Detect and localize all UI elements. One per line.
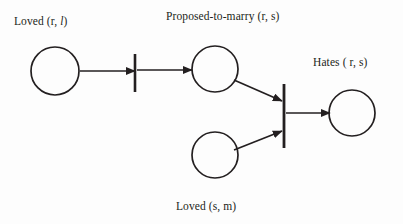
place-label-loved-sm: Loved (s, m)	[176, 199, 236, 213]
arc-loved-sm-to-t2	[234, 131, 282, 150]
diagram-canvas: Loved (r, l) Proposed-to-marry (r, s) Ha…	[0, 0, 403, 224]
label-text-suffix: )	[64, 15, 68, 27]
place-loved-rl	[31, 47, 79, 95]
label-text-prefix: Loved (r,	[14, 15, 60, 27]
transition-group	[135, 54, 284, 148]
place-loved-sm	[192, 132, 238, 178]
place-hates	[329, 90, 375, 136]
place-proposed-to-marry	[192, 46, 238, 92]
place-label-proposed-to-marry: Proposed-to-marry (r, s)	[166, 9, 279, 23]
place-label-hates: Hates ( r, s)	[313, 55, 368, 69]
arc-group	[80, 70, 330, 150]
place-label-loved-rl: Loved (r, l)	[14, 14, 67, 28]
petri-net-graphic	[0, 0, 403, 224]
arc-proposed-to-t2	[234, 80, 282, 101]
